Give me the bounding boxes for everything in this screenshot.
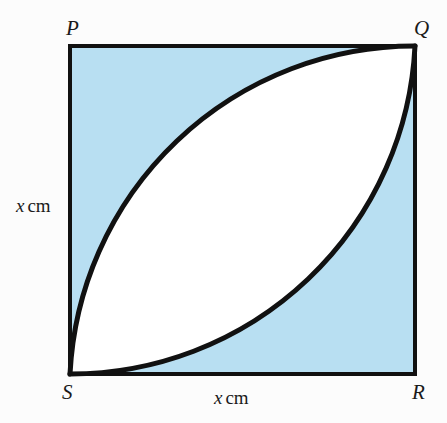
dimension-variable-left: x [16, 195, 24, 216]
dimension-unit-bottom: cm [225, 387, 248, 408]
dimension-variable-bottom: x [214, 387, 222, 408]
geometry-figure: P Q S R xcm xcm [0, 0, 447, 423]
vertex-label-s: S [62, 382, 73, 403]
vertex-label-p: P [66, 18, 79, 39]
dimension-unit-left: cm [27, 195, 50, 216]
vertex-label-q: Q [414, 18, 429, 39]
vertex-label-r: R [412, 382, 425, 403]
figure-canvas [0, 0, 447, 423]
dimension-label-bottom-side: xcm [214, 388, 249, 407]
dimension-label-left-side: xcm [16, 196, 51, 215]
